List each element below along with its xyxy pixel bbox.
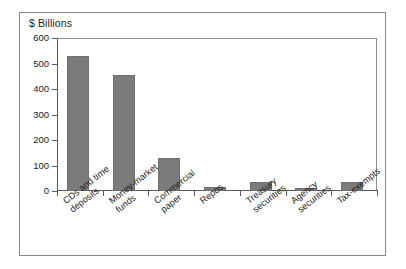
y-tick-label: 600 <box>21 33 49 43</box>
y-tick-label: 100 <box>21 161 49 171</box>
y-tick-label: 300 <box>21 110 49 120</box>
figure-canvas: $ Billions 0100200300400500600 CDs and t… <box>0 0 406 269</box>
x-tick-mark <box>103 191 104 196</box>
y-tick-label: 500 <box>21 59 49 69</box>
y-tick-label-text: 600 <box>21 33 49 43</box>
bar <box>113 75 135 191</box>
y-tick-mark <box>52 115 57 116</box>
y-tick-mark <box>52 38 57 39</box>
y-tick-label: 200 <box>21 135 49 145</box>
y-tick-mark <box>52 140 57 141</box>
y-tick-label: 400 <box>21 84 49 94</box>
y-tick-label: 0 <box>21 186 49 196</box>
y-tick-mark <box>52 89 57 90</box>
y-tick-mark <box>52 166 57 167</box>
x-tick-mark <box>194 191 195 196</box>
y-axis <box>57 38 58 192</box>
y-tick-label-text: 300 <box>21 110 49 120</box>
y-tick-label-text: 400 <box>21 84 49 94</box>
x-tick-mark <box>286 191 287 196</box>
y-tick-label-text: 0 <box>21 186 49 196</box>
x-tick-mark <box>240 191 241 196</box>
y-tick-label-text: 100 <box>21 161 49 171</box>
y-tick-label-text: 500 <box>21 59 49 69</box>
x-tick-mark <box>57 191 58 196</box>
chart-title: $ Billions <box>29 17 72 29</box>
x-tick-mark <box>331 191 332 196</box>
y-tick-label-text: 200 <box>21 135 49 145</box>
y-tick-mark <box>52 64 57 65</box>
x-tick-mark <box>377 191 378 196</box>
bar <box>67 56 89 191</box>
